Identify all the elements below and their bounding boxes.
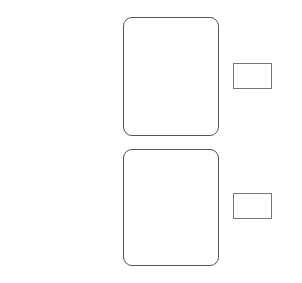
- answer-input-2[interactable]: [233, 193, 272, 219]
- top-view-frame-1: [123, 17, 219, 136]
- cube-structure-1: [0, 0, 125, 140]
- cube-structure-2: [0, 130, 125, 270]
- top-view-diagram-1: [124, 18, 220, 108]
- answer-input-1[interactable]: [233, 63, 272, 89]
- top-view-frame-2: [123, 149, 219, 266]
- top-view-diagram-2: [124, 150, 220, 240]
